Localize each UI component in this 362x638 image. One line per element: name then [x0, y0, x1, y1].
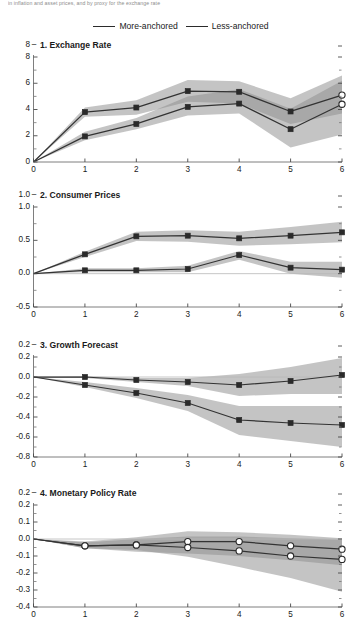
data-point-less-anchored: [236, 548, 242, 554]
data-point-less-anchored: [134, 391, 139, 396]
y-tick-label-top: 0.2: [0, 488, 30, 497]
data-point-less-anchored: [237, 418, 242, 423]
plot-canvas: [0, 0, 362, 638]
x-tick-label: 2: [126, 610, 146, 619]
y-tick-label: -0.5: [0, 302, 30, 311]
data-point-less-anchored: [185, 104, 190, 109]
x-tick-label: 2: [126, 310, 146, 319]
x-tick-label: 6: [332, 165, 352, 174]
figure-panel-chart: in inflation and asset prices, and by pr…: [0, 0, 362, 638]
y-tick-label: 1.0: [0, 202, 30, 211]
x-tick-label: 0: [24, 165, 44, 174]
panel-1: [34, 46, 346, 162]
data-point-less-anchored: [288, 421, 293, 426]
data-point-more-anchored: [236, 538, 242, 544]
y-tick-label: 8: [0, 52, 30, 61]
y-tick-label: -0.2: [0, 392, 30, 401]
data-point-more-anchored: [288, 379, 293, 384]
data-point-more-anchored: [339, 92, 345, 98]
data-point-more-anchored: [288, 233, 293, 238]
data-point-more-anchored: [82, 375, 87, 380]
y-tick-label: -0.1: [0, 551, 30, 560]
y-tick-label: -0.6: [0, 432, 30, 441]
x-tick-label: 3: [178, 165, 198, 174]
x-tick-label: 5: [281, 165, 301, 174]
y-tick-label-top: 1.0: [0, 190, 30, 199]
x-tick-label: 1: [75, 165, 95, 174]
panel-title: 3. Growth Forecast: [40, 340, 118, 350]
data-point-less-anchored: [185, 401, 190, 406]
data-point-less-anchored: [82, 383, 87, 388]
y-tick-label: -0.8: [0, 452, 30, 461]
y-tick-label: 0.0: [0, 534, 30, 543]
x-tick-label: 3: [178, 610, 198, 619]
data-point-less-anchored: [82, 543, 88, 549]
data-point-more-anchored: [340, 230, 345, 235]
panel-2: [34, 196, 345, 307]
data-point-more-anchored: [134, 105, 139, 110]
data-point-more-anchored: [82, 110, 87, 115]
x-tick-label: 4: [229, 460, 249, 469]
data-point-more-anchored: [288, 109, 293, 114]
x-tick-label: 3: [178, 460, 198, 469]
x-tick-label: 5: [281, 310, 301, 319]
x-tick-label: 6: [332, 610, 352, 619]
x-tick-label: 1: [75, 610, 95, 619]
data-point-less-anchored: [185, 267, 190, 272]
y-tick-dash: –: [30, 340, 38, 349]
x-tick-label: 3: [178, 310, 198, 319]
panel-4: [34, 494, 346, 607]
x-tick-label: 4: [229, 610, 249, 619]
data-point-more-anchored: [287, 543, 293, 549]
y-tick-label: 0.5: [0, 235, 30, 244]
data-point-more-anchored: [82, 252, 87, 257]
y-tick-dash: –: [30, 190, 38, 199]
x-tick-label: 1: [75, 310, 95, 319]
x-tick-label: 2: [126, 165, 146, 174]
panel-title: 4. Monetary Policy Rate: [40, 488, 136, 498]
data-point-more-anchored: [237, 383, 242, 388]
y-tick-dash: –: [30, 40, 38, 49]
y-tick-label-top: 0.2: [0, 340, 30, 349]
data-point-more-anchored: [237, 236, 242, 241]
data-point-less-anchored: [237, 101, 242, 106]
data-point-more-anchored: [237, 89, 242, 94]
data-point-less-anchored: [82, 268, 87, 273]
data-point-more-anchored: [185, 380, 190, 385]
y-tick-label: 0: [0, 157, 30, 166]
data-point-less-anchored: [339, 101, 345, 107]
data-point-more-anchored: [134, 378, 139, 383]
panel-title: 1. Exchange Rate: [40, 40, 111, 50]
data-point-less-anchored: [287, 553, 293, 559]
x-tick-label: 6: [332, 460, 352, 469]
y-tick-label: 0.0: [0, 268, 30, 277]
panel-title: 2. Consumer Prices: [40, 190, 120, 200]
x-tick-label: 0: [24, 460, 44, 469]
data-point-less-anchored: [340, 267, 345, 272]
data-point-less-anchored: [82, 134, 87, 139]
x-tick-label: 5: [281, 460, 301, 469]
x-tick-label: 6: [332, 310, 352, 319]
data-point-less-anchored: [133, 542, 139, 548]
x-tick-label: 0: [24, 610, 44, 619]
y-tick-label: 0.2: [0, 500, 30, 509]
x-tick-label: 2: [126, 460, 146, 469]
data-point-less-anchored: [339, 556, 345, 562]
data-point-more-anchored: [185, 89, 190, 94]
data-point-more-anchored: [185, 538, 191, 544]
data-point-more-anchored: [339, 546, 345, 552]
y-tick-dash: –: [30, 488, 38, 497]
x-tick-label: 4: [229, 165, 249, 174]
data-point-less-anchored: [134, 268, 139, 273]
y-tick-label: 6: [0, 78, 30, 87]
x-tick-label: 4: [229, 310, 249, 319]
data-point-less-anchored: [288, 127, 293, 132]
y-tick-label: 4: [0, 104, 30, 113]
y-tick-label: 0.2: [0, 352, 30, 361]
y-tick-label: -0.4: [0, 602, 30, 611]
y-tick-label: 0.1: [0, 517, 30, 526]
data-point-less-anchored: [237, 253, 242, 258]
data-point-more-anchored: [185, 233, 190, 238]
y-tick-label: -0.2: [0, 568, 30, 577]
y-tick-label: 0.0: [0, 372, 30, 381]
